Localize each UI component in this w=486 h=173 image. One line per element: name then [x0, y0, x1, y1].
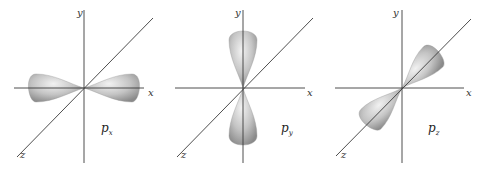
- x-axis-label: x: [466, 87, 472, 98]
- orbital-label-pz: pz: [428, 121, 440, 137]
- p-orbitals-figure: y x z px y x z py y x z pz: [0, 0, 486, 173]
- x-axis-label: x: [307, 87, 313, 98]
- panel-px: y x z px: [14, 7, 154, 163]
- y-axis-label: y: [234, 7, 241, 18]
- x-axis-label: x: [148, 87, 154, 98]
- z-axis-label: z: [180, 149, 187, 160]
- z-axis: [336, 19, 471, 156]
- panel-py: y x z py: [175, 7, 313, 163]
- y-axis-label: y: [76, 7, 83, 18]
- z-axis-label: z: [340, 149, 347, 160]
- panel-pz: y x z pz: [335, 7, 472, 163]
- z-axis-label: z: [19, 149, 26, 160]
- orbital-label-px: px: [101, 121, 113, 137]
- orbital-label-py: py: [281, 121, 294, 137]
- y-axis-label: y: [392, 7, 399, 18]
